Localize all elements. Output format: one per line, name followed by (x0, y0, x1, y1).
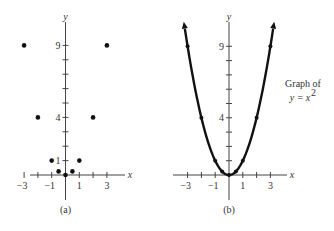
x-tick-label: −1 (208, 180, 219, 191)
marked-point (234, 169, 238, 173)
marked-point (227, 173, 231, 177)
panel-caption: (b) (223, 204, 235, 216)
data-point (49, 158, 54, 163)
marked-point (186, 44, 190, 48)
data-point (70, 169, 75, 174)
marked-point (255, 116, 259, 120)
y-tick-label: 1 (56, 155, 61, 166)
data-point (22, 43, 27, 48)
chart-panel-b: −3−11349xy(b)Graph ofy = x2 (173, 11, 322, 216)
x-tick-label: 3 (268, 180, 273, 191)
annotation-line2: y = x (289, 92, 311, 103)
annotation-line1: Graph of (285, 78, 321, 89)
figure: −3−113149xy(a)−3−11349xy(b)Graph ofy = x… (0, 0, 334, 231)
x-tick-label: 1 (77, 180, 82, 191)
data-point (36, 115, 41, 120)
y-tick-label: 9 (219, 41, 224, 52)
data-point (77, 158, 82, 163)
y-tick-label: 4 (56, 112, 61, 123)
x-tick-label: −1 (44, 180, 55, 191)
x-tick-label: −3 (180, 180, 191, 191)
marked-point (213, 159, 217, 163)
chart-panel-a: −3−113149xy(a) (17, 11, 133, 216)
y-tick-label: 9 (56, 40, 61, 51)
panel-caption: (a) (60, 204, 71, 216)
x-axis-label: x (127, 169, 133, 180)
y-tick-label: 4 (219, 112, 224, 123)
marked-point (241, 159, 245, 163)
x-axis-label: x (289, 169, 295, 180)
data-point (56, 169, 61, 174)
data-point (105, 43, 110, 48)
x-tick-label: −3 (17, 180, 28, 191)
x-tick-label: 1 (240, 180, 245, 191)
x-tick-label: 3 (104, 180, 109, 191)
marked-point (199, 116, 203, 120)
marked-point (220, 169, 224, 173)
y-axis-label: y (62, 11, 68, 22)
annotation-superscript: 2 (311, 87, 316, 98)
y-axis-label: y (226, 11, 232, 22)
data-point (91, 115, 96, 120)
data-point (63, 173, 68, 178)
arrow-head-icon (270, 22, 276, 29)
marked-point (268, 44, 272, 48)
arrow-head-icon (182, 22, 188, 29)
